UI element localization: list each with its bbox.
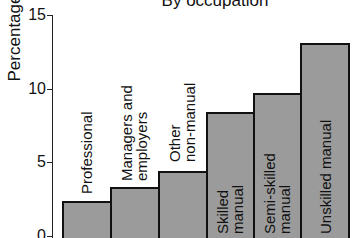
y-tick: [47, 15, 52, 16]
category-label-line: Managers and: [119, 85, 134, 181]
bar-professional: [62, 201, 112, 238]
y-tick-label: 5: [24, 154, 46, 170]
y-tick: [47, 89, 52, 90]
category-label-line: employers: [134, 85, 149, 181]
category-label-line: Other: [167, 83, 182, 162]
category-label: Unskilled manual: [318, 120, 333, 234]
category-label-line: Professional: [79, 111, 94, 194]
y-tick-label: 0: [24, 228, 46, 238]
category-label-line: manual: [230, 185, 245, 234]
category-label: Managers andemployers: [119, 85, 149, 181]
y-axis-line: [52, 15, 53, 238]
chart-title: By occupation: [150, 0, 280, 11]
category-label-line: Unskilled manual: [318, 120, 333, 234]
category-label: Othernon-manual: [167, 83, 197, 162]
bar-managers-and-employers: [110, 187, 160, 238]
y-axis-label: Percentage: [5, 0, 25, 83]
category-label: Professional: [79, 111, 94, 194]
y-tick: [47, 162, 52, 163]
y-tick: [47, 236, 52, 237]
bar-other-non-manual: [158, 171, 208, 238]
category-label: Semi-skilledmanual: [262, 153, 292, 234]
category-label-line: manual: [277, 153, 292, 234]
category-label-line: Semi-skilled: [262, 153, 277, 234]
y-tick-label: 15: [24, 7, 46, 23]
category-label-line: non-manual: [182, 83, 197, 162]
y-tick-label: 10: [24, 81, 46, 97]
category-label-line: Skilled: [215, 185, 230, 234]
category-label: Skilledmanual: [215, 185, 245, 234]
